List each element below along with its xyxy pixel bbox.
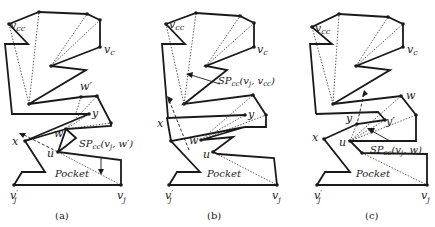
label-pocket: Pocket <box>54 168 90 179</box>
label-w: w <box>189 134 199 147</box>
panel-b: vcc vc SPcc(vj, vcc) y x w u Pocket v′j … <box>157 11 281 221</box>
sp-pointer <box>372 131 390 141</box>
label-vc: vc <box>257 43 268 57</box>
label-x: x <box>157 117 164 130</box>
label-vj-prime: v′j <box>165 188 173 204</box>
label-y-prime: y′ <box>385 115 395 128</box>
arrowhead-icon <box>186 72 193 78</box>
arrowhead-icon <box>362 90 368 97</box>
label-vc: vc <box>104 43 115 57</box>
caption-a: (a) <box>55 210 69 221</box>
label-y: y <box>91 107 99 120</box>
panel-c: vcc vc w y y′ x u SPcc(vj, w) Pocket v′j… <box>310 12 430 221</box>
label-vj: vj <box>272 189 281 204</box>
label-shortest-path: SPcc(vj, w′) <box>79 138 133 151</box>
label-u: u <box>339 136 346 149</box>
label-w: w <box>54 127 64 140</box>
label-vj: vj <box>421 189 430 204</box>
label-shortest-path: SPcc(vj, vcc) <box>218 75 275 88</box>
label-x: x <box>312 131 319 144</box>
label-pocket: Pocket <box>355 168 391 179</box>
label-w: w <box>406 89 416 102</box>
label-vj-prime: v′j <box>314 188 322 204</box>
label-u: u <box>47 147 54 160</box>
panel-a: vcc vc w′ y w x u SPcc(vj, w′) Pocket v′… <box>5 10 133 221</box>
caption-c: (c) <box>365 210 379 221</box>
label-u: u <box>203 148 210 161</box>
label-y: y <box>247 108 255 121</box>
arrowhead-icon <box>98 169 104 175</box>
label-vcc: vcc <box>315 22 331 36</box>
label-pocket: Pocket <box>206 168 242 179</box>
label-vj: vj <box>117 189 126 204</box>
label-vj-prime: v′j <box>10 188 18 204</box>
label-w-prime: w′ <box>80 80 92 93</box>
label-shortest-path: SPcc(vj, w) <box>370 144 422 157</box>
label-vc: vc <box>407 43 418 57</box>
label-y: y <box>345 112 353 125</box>
caption-b: (b) <box>207 210 221 221</box>
label-x: x <box>12 135 19 148</box>
figure-canvas: vcc vc w′ y w x u SPcc(vj, w′) Pocket v′… <box>0 0 435 227</box>
